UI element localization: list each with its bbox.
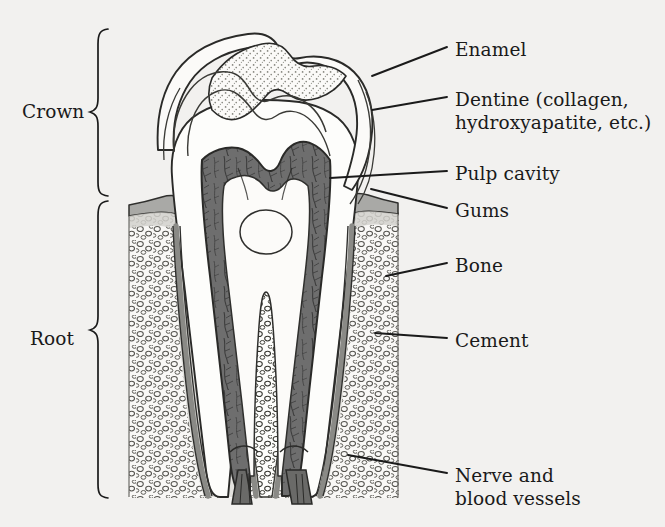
tooth-cross-section-illustration — [0, 0, 665, 527]
tooth-anatomy-figure: Crown Root Enamel Dentine (collagen, hyd… — [0, 0, 665, 527]
region-label-root: Root — [30, 327, 74, 350]
callout-label-nerve: Nerve and — [455, 464, 554, 487]
region-label-crown: Crown — [22, 100, 84, 123]
callout-label-dentine: Dentine (collagen, — [455, 88, 629, 111]
callout-label-dentine-line2: hydroxyapatite, etc.) — [455, 111, 651, 134]
callout-label-gums: Gums — [455, 199, 509, 222]
callout-label-enamel: Enamel — [455, 38, 526, 61]
callout-label-bone: Bone — [455, 254, 503, 277]
callout-label-pulp-cavity: Pulp cavity — [455, 162, 560, 185]
callout-label-cement: Cement — [455, 329, 529, 352]
callout-label-nerve-line2: blood vessels — [455, 487, 581, 510]
